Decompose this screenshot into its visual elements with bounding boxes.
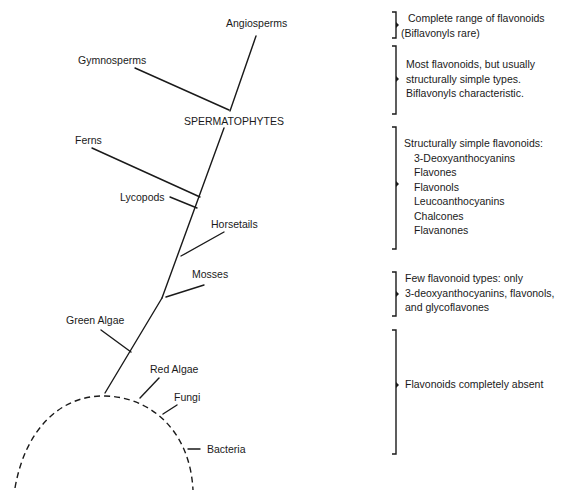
note-angiosperms: Complete range of flavonoids (Biflavonyl…: [405, 11, 545, 40]
bracket-lower: [392, 330, 396, 454]
note-pteridophytes-heading: Structurally simple flavonoids:: [404, 136, 543, 151]
bracket-gymnosperms: [392, 46, 396, 114]
note-mosses-line-2: 3-deoxyanthocyanins, flavonols,: [405, 286, 554, 301]
label-mosses: Mosses: [192, 268, 228, 281]
label-red-algae: Red Algae: [150, 363, 198, 376]
note-pteridophytes-item: Flavanones: [404, 223, 543, 238]
note-pteridophytes: Structurally simple flavonoids: 3-Deoxya…: [404, 136, 543, 238]
label-ferns: Ferns: [75, 134, 102, 147]
note-gymnosperms-line-2: structurally simple types.: [406, 72, 535, 87]
branch-horsetails: [181, 232, 224, 256]
bracket-pointer-mosses: [396, 291, 399, 297]
branch-gymnosperms: [135, 68, 229, 110]
trunk-lower: [105, 298, 162, 393]
note-pteridophytes-item: Leucoanthocyanins: [404, 194, 543, 209]
bracket-angiosperms: [392, 12, 396, 38]
note-angiosperms-line-2: (Biflavonyls rare): [401, 26, 545, 41]
branch-mosses: [166, 285, 204, 297]
label-lycopods: Lycopods: [120, 191, 165, 204]
note-pteridophytes-item: Chalcones: [404, 209, 543, 224]
label-bacteria: Bacteria: [207, 443, 246, 456]
note-pteridophytes-item: 3-Deoxyanthocyanins: [404, 151, 543, 166]
note-gymnosperms-line-3: Biflavonyls characteristic.: [406, 86, 535, 101]
bracket-mosses: [392, 272, 396, 316]
label-fungi: Fungi: [174, 391, 200, 404]
bracket-pointer-gymnosperms: [396, 76, 399, 82]
label-spermatophytes: SPERMATOPHYTES: [184, 115, 284, 128]
branch-fungi: [163, 405, 177, 414]
branch-ferns: [92, 148, 200, 197]
label-angiosperms: Angiosperms: [226, 17, 287, 30]
note-mosses-line-1: Few flavonoid types: only: [405, 271, 554, 286]
label-horsetails: Horsetails: [211, 218, 258, 231]
dashed-arc-origin: [15, 396, 193, 490]
bracket-pointer-lower: [396, 382, 399, 388]
bracket-pointer-pteridophytes: [396, 181, 399, 187]
note-angiosperms-line-1: Complete range of flavonoids: [405, 11, 545, 26]
note-gymnosperms-line-1: Most flavonoids, but usually: [406, 57, 535, 72]
note-pteridophytes-item: Flavonols: [404, 180, 543, 195]
note-mosses: Few flavonoid types: only 3-deoxyanthocy…: [405, 271, 554, 315]
note-pteridophytes-item: Flavones: [404, 165, 543, 180]
note-gymnosperms: Most flavonoids, but usually structurall…: [406, 57, 535, 101]
bracket-pointer-angiosperms: [396, 22, 399, 28]
note-lower: Flavonoids completely absent: [405, 377, 543, 392]
bracket-pteridophytes: [392, 127, 396, 249]
label-gymnosperms: Gymnosperms: [78, 54, 146, 67]
note-mosses-line-3: and glycoflavones: [405, 300, 554, 315]
label-green-algae: Green Algae: [66, 314, 124, 327]
branch-lycopods: [170, 197, 197, 208]
note-lower-line-1: Flavonoids completely absent: [405, 377, 543, 392]
branch-green-algae: [101, 330, 131, 352]
branch-red-algae: [140, 378, 159, 398]
trunk-upper: [230, 36, 256, 111]
